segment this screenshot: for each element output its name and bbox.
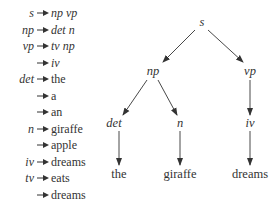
tree-leaf-dreams: dreams <box>232 167 268 181</box>
tree-node-s: s <box>200 15 205 29</box>
edge-s-np <box>163 30 195 62</box>
tree-node-n: n <box>177 116 183 130</box>
parse-tree: s np vp det n iv the giraffe dreams <box>0 0 279 203</box>
tree-node-det: det <box>106 116 121 130</box>
tree-leaf-the: the <box>111 167 126 181</box>
tree-node-np: np <box>147 64 160 78</box>
tree-leaf-giraffe: giraffe <box>163 167 196 181</box>
tree-node-vp: vp <box>244 64 256 78</box>
tree-node-iv: iv <box>245 116 254 130</box>
edge-np-n <box>158 80 177 115</box>
edge-s-vp <box>208 30 243 62</box>
edge-np-det <box>123 80 147 115</box>
